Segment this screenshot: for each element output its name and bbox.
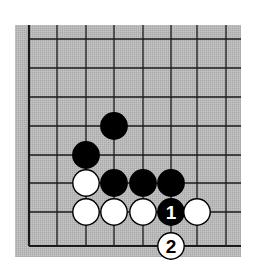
board-background [15,25,241,257]
black-stone [101,113,127,139]
white-stone-move-2: 2 [158,233,184,259]
black-stone [158,170,184,196]
white-stone [101,199,127,225]
go-board-diagram: 12 [0,0,253,267]
move-number-label: 2 [166,236,177,257]
black-stone-move-1: 1 [158,199,184,225]
move-number-label: 1 [166,202,177,223]
white-stone [184,199,210,225]
white-stone [130,199,156,225]
black-stone [73,142,99,168]
black-stone [130,170,156,196]
white-stone [73,170,99,196]
white-stone [73,199,99,225]
black-stone [101,170,127,196]
